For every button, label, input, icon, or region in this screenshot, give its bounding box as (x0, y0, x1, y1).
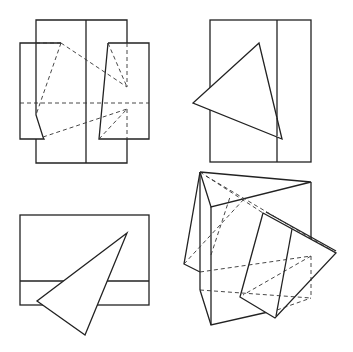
side-view (193, 20, 311, 162)
isometric-view (184, 172, 336, 325)
projection-diagram (0, 0, 353, 352)
front-view (20, 20, 149, 163)
top-view (20, 215, 149, 335)
